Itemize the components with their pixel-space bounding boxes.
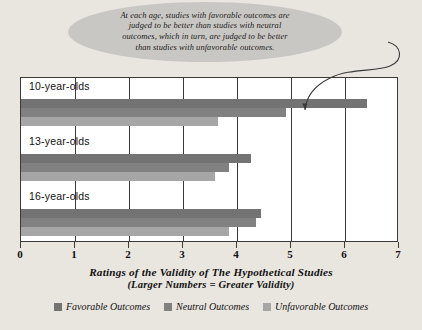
x-tick-label: 3 (179, 248, 185, 260)
x-axis-title-line1: Ratings of the Validity of The Hypotheti… (0, 266, 422, 278)
bar-unf (21, 117, 218, 126)
bar-neu (21, 218, 256, 227)
legend-label: Unfavorable Outcomes (275, 301, 368, 312)
x-axis-title: Ratings of the Validity of The Hypotheti… (0, 266, 422, 290)
legend-label: Favorable Outcomes (66, 301, 150, 312)
bar-groups: 10-year-olds13-year-olds16-year-olds (21, 78, 397, 241)
chart-legend: Favorable OutcomesNeutral OutcomesUnfavo… (0, 301, 422, 312)
x-tick-label: 0 (17, 248, 23, 260)
x-tick-label: 2 (125, 248, 131, 260)
legend-swatch-icon (54, 303, 62, 311)
callout-bubble: At each age, studies with favorable outc… (68, 2, 342, 62)
bar-neu (21, 108, 286, 117)
legend-swatch-icon (164, 303, 172, 311)
bar-group-label: 16-year-olds (29, 190, 90, 202)
x-axis-title-line2: (Larger Numbers = Greater Validity) (0, 279, 422, 290)
legend-item[interactable]: Favorable Outcomes (54, 301, 150, 312)
bar-unf (21, 227, 229, 236)
bar-group-label: 13-year-olds (29, 135, 90, 147)
bar-neu (21, 163, 229, 172)
x-tick-label: 1 (71, 248, 77, 260)
x-axis: 01234567 (20, 242, 398, 264)
bar-group-label: 10-year-olds (29, 80, 90, 92)
bar-group: 13-year-olds (21, 133, 397, 188)
legend-label: Neutral Outcomes (176, 301, 249, 312)
x-tick-label: 7 (395, 248, 401, 260)
legend-swatch-icon (263, 303, 271, 311)
bar-fav (21, 209, 261, 218)
bar-unf (21, 172, 215, 181)
legend-item[interactable]: Neutral Outcomes (164, 301, 249, 312)
legend-item[interactable]: Unfavorable Outcomes (263, 301, 368, 312)
bar-fav (21, 154, 251, 163)
callout-text: At each age, studies with favorable outc… (98, 11, 311, 53)
bar-group: 10-year-olds (21, 78, 397, 133)
bar-group: 16-year-olds (21, 188, 397, 243)
x-tick-label: 6 (341, 248, 347, 260)
chart-plot-area: 10-year-olds13-year-olds16-year-olds (20, 77, 398, 242)
bar-fav (21, 99, 367, 108)
x-tick-label: 4 (233, 248, 239, 260)
x-tick-label: 5 (287, 248, 293, 260)
